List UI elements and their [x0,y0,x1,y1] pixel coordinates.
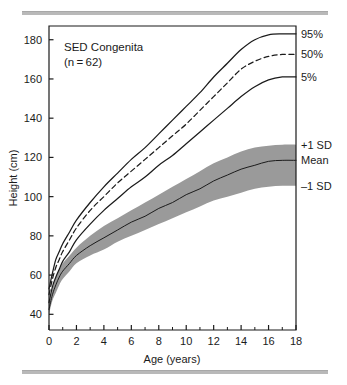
x-tick-label: 12 [208,335,220,347]
y-tick-label: 80 [30,230,42,242]
series-label-sd-plus: +1 SD [301,139,332,151]
y-tick-label: 180 [24,34,42,46]
series-label-p95: 95% [301,28,323,40]
x-tick-label: 2 [73,335,79,347]
x-tick-label: 6 [128,335,134,347]
y-tick-label: 140 [24,112,42,124]
series-edge-labels: 95%50%5%+1 SDMean–1 SD [301,28,332,192]
series-label-sd-minus: –1 SD [301,180,332,192]
x-axis-ticks [49,325,296,330]
y-tick-label: 100 [24,191,42,203]
x-tick-label: 14 [235,335,247,347]
y-tick-label: 120 [24,151,42,163]
y-axis-tick-labels: 406080100120140160180 [24,34,42,321]
annotation-diagnosis: SED Congenita [64,41,144,53]
x-tick-label: 4 [101,335,107,347]
y-tick-label: 60 [30,269,42,281]
growth-chart-figure: 406080100120140160180 024681012141618 Ag… [0,0,347,385]
x-tick-label: 10 [180,335,192,347]
x-tick-label: 16 [262,335,274,347]
x-tick-label: 8 [156,335,162,347]
chart-canvas: 406080100120140160180 024681012141618 Ag… [0,0,347,385]
series-label-p50: 50% [301,48,323,60]
x-tick-label: 18 [290,335,302,347]
annotation-sample-size: (n = 62) [64,56,102,68]
x-axis-tick-labels: 024681012141618 [46,335,302,347]
series-label-mean: Mean [301,154,329,166]
x-tick-label: 0 [46,335,52,347]
series-label-p5: 5% [301,71,317,83]
y-tick-label: 160 [24,73,42,85]
y-tick-label: 40 [30,308,42,320]
y-axis-title: Height (cm) [7,150,19,207]
x-axis-title: Age (years) [144,353,201,365]
